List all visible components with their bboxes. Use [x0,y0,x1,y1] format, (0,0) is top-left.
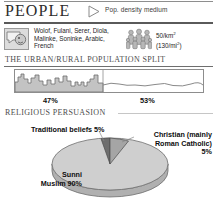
density-metric-value: 50/km [156,32,173,39]
people-info-row: Wolof, Fulani, Serer, Diola, Malinke, So… [0,26,217,54]
pop-density-caption: Pop. density medium [105,6,168,13]
density-imperial-line: (130/mi2) [156,40,182,50]
density-metric-exponent: 2 [173,31,175,36]
header-rule-bottom [4,22,213,24]
religion-rule [118,113,213,114]
population-density-values: 50/km2 (130/mi2) [156,30,182,50]
pie-label-christian-line3: 5% [137,148,212,157]
people-group-icon [126,28,152,50]
density-imperial-value: (130/mi [156,42,177,49]
languages-list: Wolof, Fulani, Serer, Diola, Malinke, So… [34,27,120,50]
urban-rural-chart [14,69,204,93]
urban-rural-heading: THE URBAN/RURAL POPULATION SPLIT [5,55,165,64]
urban-percentage-label: 47% [43,96,58,105]
speech-bubble-head-icon [4,28,29,50]
rural-percentage-label: 53% [140,96,155,105]
page-title: PEOPLE [5,1,70,20]
pie-label-sunni-line2: Muslim 90% [18,180,82,189]
pie-label-traditional-beliefs: Traditional beliefs 5% [31,126,105,135]
urban-rural-rule [4,66,213,67]
density-metric-line: 50/km2 [156,30,182,40]
density-imperial-close: ) [179,42,181,49]
pie-label-christian-line2: Roman Catholic) [137,140,212,149]
people-header: PEOPLE Pop. density medium [0,0,217,26]
triangle-flag-icon [88,5,100,18]
pie-label-sunni-muslim: Sunni Muslim 90% [18,171,82,188]
pie-label-christian: Christian (mainly Roman Catholic) 5% [137,131,212,157]
religion-heading: RELIGIOUS PERSUASION [5,108,106,117]
